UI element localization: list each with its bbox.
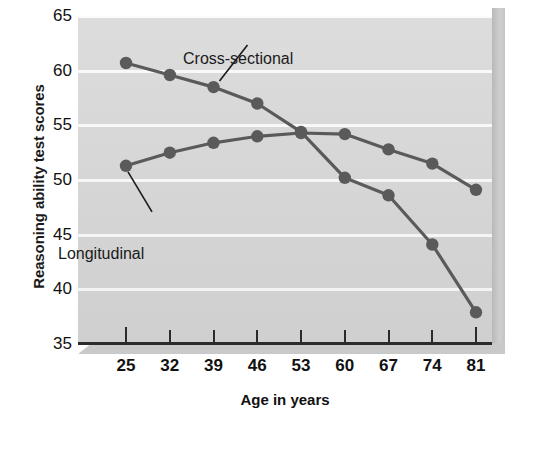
data-point — [339, 172, 351, 184]
x-tick-label: 39 — [204, 356, 223, 376]
y-tick-label: 60 — [36, 61, 72, 81]
data-point — [295, 127, 307, 139]
data-point — [251, 97, 263, 109]
data-point — [470, 306, 482, 318]
x-tick-mark — [125, 327, 127, 343]
x-tick-mark — [344, 330, 346, 343]
y-tick-label: 50 — [36, 170, 72, 190]
x-tick-mark — [475, 327, 477, 343]
x-tick-mark — [256, 330, 258, 343]
data-point — [251, 130, 263, 142]
annotation-cross-sectional: Cross-sectional — [183, 50, 293, 68]
data-point — [164, 69, 176, 81]
data-point — [426, 157, 438, 169]
x-tick-label: 46 — [248, 356, 267, 376]
data-point — [470, 184, 482, 196]
y-tick-label: 35 — [36, 334, 72, 354]
x-tick-mark — [213, 330, 215, 343]
x-tick-mark — [300, 330, 302, 343]
data-point — [207, 81, 219, 93]
data-point — [382, 189, 394, 201]
x-tick-label: 67 — [379, 356, 398, 376]
data-point — [339, 128, 351, 140]
y-tick-label: 65 — [36, 6, 72, 26]
data-point — [382, 143, 394, 155]
reasoning-ability-line-chart: Reasoning ability test scores 6560555045… — [0, 0, 560, 455]
data-point — [207, 137, 219, 149]
y-tick-label: 45 — [36, 225, 72, 245]
y-tick-label: 55 — [36, 115, 72, 135]
x-tick-mark — [431, 330, 433, 343]
data-point — [426, 238, 438, 250]
data-point — [120, 57, 132, 69]
data-point — [164, 147, 176, 159]
x-axis-line — [78, 342, 492, 345]
y-axis-tick-labels: 65605550454035 — [36, 0, 72, 455]
x-tick-label: 81 — [467, 356, 486, 376]
annotation-longitudinal: Longitudinal — [58, 245, 144, 263]
x-tick-label: 53 — [292, 356, 311, 376]
x-tick-label: 25 — [117, 356, 136, 376]
series-line-cross-sectional — [126, 63, 476, 312]
x-tick-label: 74 — [423, 356, 442, 376]
leader-longitudinal — [128, 172, 152, 212]
x-tick-label: 32 — [160, 356, 179, 376]
series-line-longitudinal — [126, 133, 476, 190]
data-point — [120, 160, 132, 172]
plot-right-face — [492, 8, 505, 344]
y-tick-label: 40 — [36, 279, 72, 299]
x-tick-mark — [169, 330, 171, 343]
x-tick-label: 60 — [335, 356, 354, 376]
x-axis-title: Age in years — [78, 391, 492, 408]
x-tick-mark — [388, 330, 390, 343]
